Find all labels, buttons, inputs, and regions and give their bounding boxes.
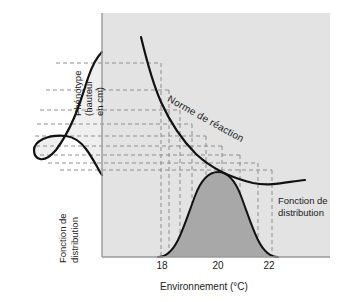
right-distribution-label-line1: Fonction de xyxy=(278,196,328,207)
x-tick-label-22: 22 xyxy=(259,260,279,271)
y-axis-title-line3: en cm) xyxy=(95,87,106,116)
reaction-norm-figure: Phénotype (hauteur en cm) Fonction de di… xyxy=(0,0,342,302)
right-distribution-label-line2: distribution xyxy=(278,208,324,219)
x-tick-label-18: 18 xyxy=(152,260,172,271)
left-distribution-label-line1: Fonction de xyxy=(58,213,69,263)
x-axis-title: Environnement (°C) xyxy=(160,281,248,292)
left-distribution-label-line2: distribution xyxy=(70,217,81,263)
figure-canvas xyxy=(0,0,342,302)
x-tick-label-20: 20 xyxy=(208,260,228,271)
